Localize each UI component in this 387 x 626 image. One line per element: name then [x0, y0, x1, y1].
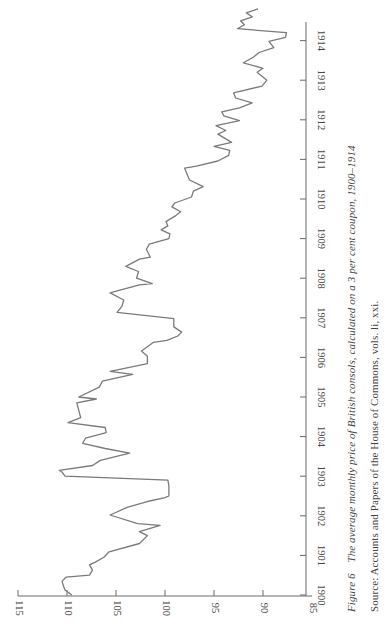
figure-title: The average monthly price of British con…: [345, 145, 357, 562]
year-tick-label: 1908: [316, 268, 327, 289]
figure-caption: Figure 6 The average monthly price of Br…: [345, 145, 357, 612]
consol-price-line: [59, 9, 286, 595]
price-tick-label: 115: [14, 600, 25, 615]
axis-ticks: [18, 41, 306, 596]
year-tick-label: 1905: [316, 387, 327, 408]
price-tick-label: 110: [63, 600, 74, 615]
year-tick-label: 1914: [316, 30, 327, 52]
rotated-line-chart: 1900190119021903190419051906190719081909…: [0, 0, 387, 626]
year-tick-label: 1913: [316, 70, 327, 91]
year-tick-label: 1910: [316, 189, 327, 210]
price-tick-label: 85: [308, 603, 319, 614]
price-tick-label: 105: [112, 600, 123, 616]
price-tick-label: 95: [210, 603, 221, 614]
year-tick-label: 1907: [316, 307, 327, 328]
year-tick-label: 1903: [316, 466, 327, 487]
tick-labels: 1900190119021903190419051906190719081909…: [14, 30, 327, 616]
year-tick-label: 1912: [316, 109, 327, 130]
year-tick-label: 1904: [316, 426, 327, 448]
chart-axes: [18, 22, 312, 596]
price-tick-label: 100: [161, 600, 172, 616]
year-tick-label: 1902: [316, 505, 327, 526]
figure-source: Source: Accounts and Papers of the House…: [368, 301, 380, 612]
price-tick-label: 90: [259, 603, 270, 614]
year-tick-label: 1909: [316, 228, 327, 249]
year-tick-label: 1906: [316, 347, 327, 368]
figure-label: Figure 6: [345, 573, 357, 612]
year-tick-label: 1901: [316, 545, 327, 566]
year-tick-label: 1911: [316, 149, 327, 170]
